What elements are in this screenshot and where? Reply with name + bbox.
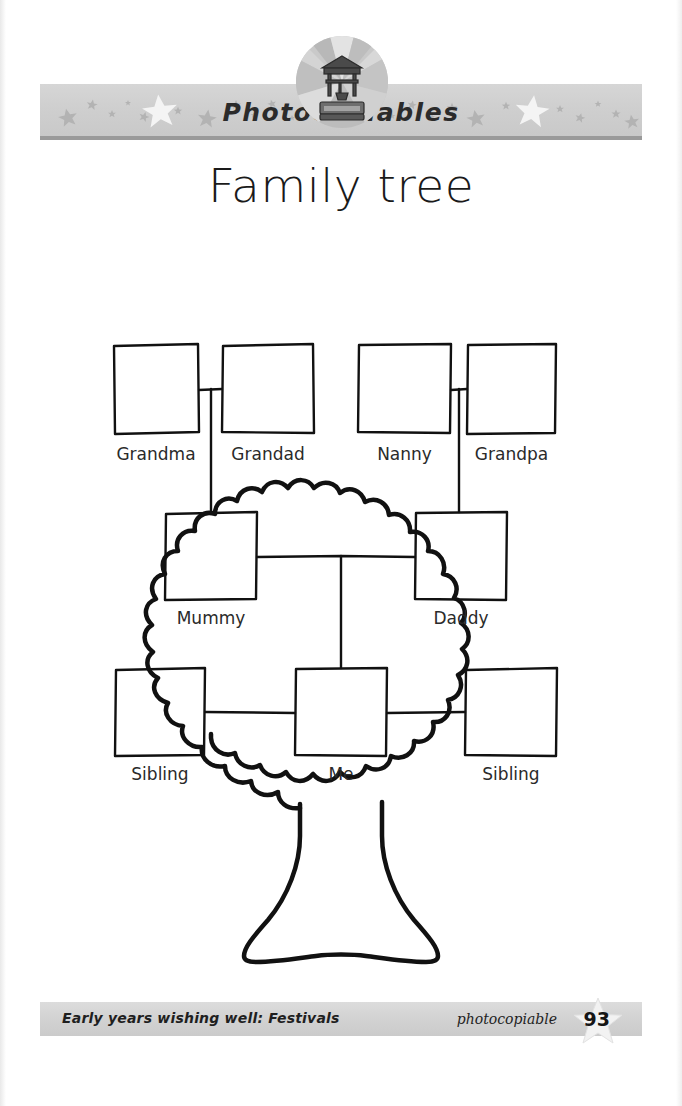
label-grandma: Grandma [113,444,199,464]
box-grandpa [467,344,556,434]
label-me: Me [295,764,387,784]
page-footer: Early years wishing well: Festivals phot… [40,1002,642,1036]
connector-mummy-daddy [257,556,415,557]
connector-me-sibling-right [387,712,465,713]
label-grandpa: Grandpa [467,444,556,464]
connector-sibling-left-me [205,712,295,713]
box-sibling-left [115,668,205,756]
label-mummy: Mummy [165,608,257,628]
box-daddy [415,512,507,600]
box-nanny [358,344,451,433]
box-sibling-right [465,668,557,756]
label-sibling-right: Sibling [465,764,557,784]
label-daddy: Daddy [415,608,507,628]
footer-page-number: 93 [584,1008,610,1030]
box-mummy [165,512,257,600]
footer-source-text: Early years wishing well: Festivals [62,1010,340,1026]
box-grandad [222,344,314,433]
label-nanny: Nanny [358,444,451,464]
box-me [295,668,387,756]
box-grandma [114,344,199,434]
label-grandad: Grandad [222,444,314,464]
footer-photocopiable-text: photocopiable [457,1011,557,1027]
label-sibling-left: Sibling [115,764,205,784]
family-tree-diagram [0,0,682,1106]
